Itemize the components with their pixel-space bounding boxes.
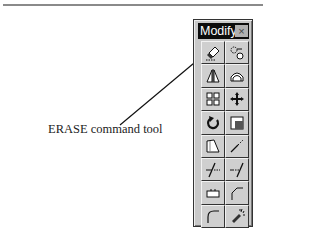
fillet-icon [205, 208, 221, 224]
trim-button[interactable] [201, 158, 225, 181]
figure-caption: ERASE command tool [48, 122, 163, 137]
explode-button[interactable] [225, 205, 249, 228]
move-icon [229, 91, 245, 107]
eraser-icon [205, 45, 221, 61]
trim-icon [205, 162, 221, 178]
stretch-icon [205, 138, 221, 154]
toolbar-title: Modify [200, 24, 237, 38]
copy-button[interactable] [225, 41, 249, 64]
mirror-button[interactable] [201, 64, 225, 87]
rotate-button[interactable] [201, 111, 225, 134]
scale-button[interactable] [225, 111, 249, 134]
rotate-icon [205, 115, 221, 131]
move-button[interactable] [225, 88, 249, 111]
extend-button[interactable] [225, 158, 249, 181]
break-icon [205, 185, 221, 201]
fillet-button[interactable] [201, 205, 225, 228]
extend-icon [229, 162, 245, 178]
chamfer-icon [229, 185, 245, 201]
close-button[interactable]: × [235, 25, 248, 37]
lengthen-button[interactable] [225, 135, 249, 158]
scale-icon [229, 115, 245, 131]
chamfer-button[interactable] [225, 181, 249, 204]
array-icon [205, 91, 221, 107]
stretch-button[interactable] [201, 135, 225, 158]
tool-grid [201, 41, 249, 228]
lengthen-icon [229, 138, 245, 154]
close-icon: × [238, 25, 244, 37]
offset-button[interactable] [225, 64, 249, 87]
mirror-icon [205, 68, 221, 84]
break-button[interactable] [201, 181, 225, 204]
array-button[interactable] [201, 88, 225, 111]
offset-icon [229, 68, 245, 84]
explode-icon [229, 208, 245, 224]
toolbar-titlebar[interactable]: Modify × [198, 23, 249, 39]
modify-toolbar[interactable]: Modify × [193, 19, 253, 227]
erase-button[interactable] [201, 41, 225, 64]
copy-object-icon [229, 45, 245, 61]
